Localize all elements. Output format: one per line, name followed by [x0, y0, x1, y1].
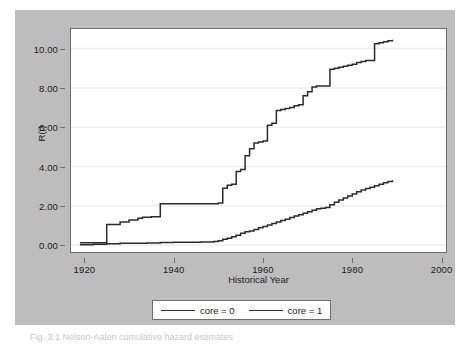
x-axis-tick-mark	[442, 258, 443, 263]
legend-label: core = 0	[200, 305, 235, 316]
y-axis-tick-mark	[60, 167, 65, 168]
series-line-core-1	[80, 180, 393, 244]
series-line-core-0	[80, 40, 393, 243]
y-axis-tick-mark	[60, 127, 65, 128]
legend-label: core = 1	[288, 305, 323, 316]
x-axis-tick-mark	[174, 258, 175, 263]
chart-legend: core = 0core = 1	[152, 300, 331, 320]
x-axis-tick-mark	[84, 258, 85, 263]
x-axis-tick-mark	[352, 258, 353, 263]
chart-canvas	[71, 29, 446, 252]
legend-line-swatch-icon	[249, 310, 283, 311]
legend-line-swatch-icon	[161, 310, 195, 311]
figure-caption: Fig. 3.1 Nelson-Aalen cumulative hazard …	[30, 332, 460, 342]
y-axis-tick-mark	[60, 206, 65, 207]
x-axis-tick-mark	[263, 258, 264, 263]
y-axis-title: R(t)	[36, 104, 47, 164]
figure-panel: 0.002.004.006.008.0010.00 R(t) 192019401…	[15, 10, 455, 325]
plot-area	[70, 28, 447, 253]
legend-entry[interactable]: core = 1	[249, 305, 323, 316]
y-axis-tick-mark	[60, 245, 65, 246]
y-axis-tick-mark	[60, 49, 65, 50]
x-axis-title: Historical Year	[70, 274, 447, 285]
legend-entry[interactable]: core = 0	[161, 305, 235, 316]
y-axis-tick-mark	[60, 88, 65, 89]
x-axis-tick-labels: 19201940196019802000	[70, 258, 447, 272]
